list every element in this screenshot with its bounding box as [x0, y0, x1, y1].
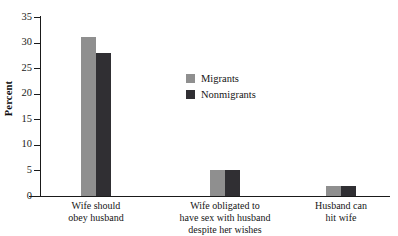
x-axis-category-label-line: despite her wishes — [150, 224, 300, 236]
y-axis-tick-label: 5 — [0, 165, 32, 176]
y-axis-tick-label: 15 — [0, 114, 32, 125]
legend-item: Migrants — [186, 70, 256, 86]
y-axis-tick-label: 0 — [0, 191, 32, 202]
x-axis-category-label: Wife obligated tohave sex with husbandde… — [150, 200, 300, 236]
x-axis-category-label: Wife shouldobey husband — [37, 200, 155, 224]
plot-area — [40, 14, 390, 196]
bar-migrants — [210, 170, 225, 196]
bar-chart-figure: Percent 05101520253035 Wife shouldobey h… — [0, 0, 398, 236]
x-axis-line — [29, 196, 390, 197]
chart-legend: MigrantsNonmigrants — [186, 70, 256, 102]
x-axis-category-label-line: hit wife — [282, 212, 398, 224]
y-axis-tick-label: 30 — [0, 37, 32, 48]
legend-item: Nonmigrants — [186, 86, 256, 102]
bar-migrants — [81, 37, 96, 196]
x-axis-category-label-line: Husband can — [282, 200, 398, 212]
legend-swatch-icon — [186, 90, 195, 99]
x-axis-category-label-line: Wife obligated to — [150, 200, 300, 212]
bar-nonmigrants — [225, 170, 240, 196]
bar-nonmigrants — [341, 186, 356, 196]
x-axis-category-label-line: Wife should — [37, 200, 155, 212]
legend-swatch-icon — [186, 74, 195, 83]
legend-item-label: Migrants — [201, 73, 239, 84]
x-axis-category-label-line: have sex with husband — [150, 212, 300, 224]
bar-group — [81, 14, 111, 196]
y-axis-tick — [34, 196, 40, 197]
y-axis-tick-label: 20 — [0, 88, 32, 99]
y-axis-tick-label: 25 — [0, 63, 32, 74]
bar-migrants — [326, 186, 341, 196]
bar-group — [326, 14, 356, 196]
y-axis-tick-label: 10 — [0, 139, 32, 150]
legend-item-label: Nonmigrants — [201, 89, 256, 100]
bar-group — [210, 14, 240, 196]
y-axis-tick-label: 35 — [0, 12, 32, 23]
x-axis-category-label: Husband canhit wife — [282, 200, 398, 224]
bar-nonmigrants — [96, 53, 111, 196]
x-axis-category-label-line: obey husband — [37, 212, 155, 224]
